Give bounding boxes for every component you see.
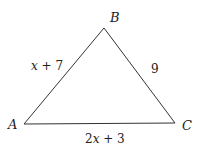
side-ac xyxy=(24,123,175,124)
side-label-bc: 9 xyxy=(151,62,159,76)
side-label-ab-rest: + 7 xyxy=(38,59,63,73)
vertex-label-b: B xyxy=(109,10,120,25)
triangle-diagram: B A C x + 7 9 2x + 3 xyxy=(0,0,203,150)
side-ab xyxy=(24,28,104,124)
side-bc xyxy=(104,28,175,123)
vertex-label-c: C xyxy=(182,118,192,133)
side-label-ab: x + 7 xyxy=(31,59,63,73)
vertex-label-a: A xyxy=(7,117,17,132)
side-label-ac: 2x + 3 xyxy=(85,132,125,146)
